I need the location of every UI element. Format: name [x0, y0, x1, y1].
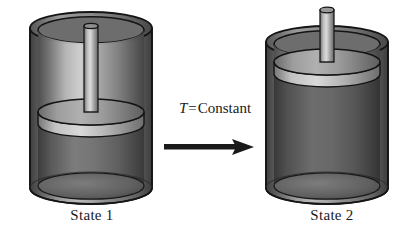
state-2-piston-rod [320, 10, 334, 62]
state-2-rod-cap [320, 7, 334, 13]
state-1-piston-rod [84, 26, 98, 112]
equals-sign: = [187, 100, 197, 116]
state-1-cylinder-floor [38, 173, 144, 199]
state-1-rod-cap [84, 23, 98, 28]
temperature-symbol: T [179, 100, 187, 116]
constant-value: Constant [198, 100, 251, 116]
process-arrow [164, 139, 254, 155]
state-2-cylinder-group [266, 7, 388, 204]
state-2-cylinder-floor [274, 173, 380, 199]
state-1-cylinder-group [30, 12, 152, 204]
state-1-label: State 1 [0, 207, 184, 224]
state-2-label: State 2 [240, 207, 405, 224]
piston-cylinder-figure: T=Constant State 1 State 2 [0, 0, 405, 231]
arrow-shaft [164, 144, 236, 150]
isothermal-annotation: T=Constant [160, 100, 270, 117]
